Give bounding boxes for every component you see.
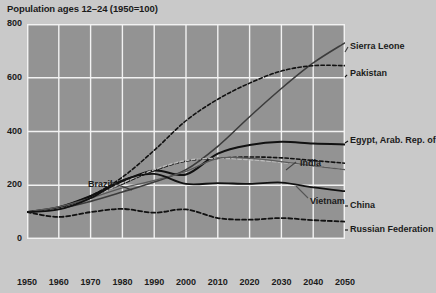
series-label-india: India (300, 158, 321, 168)
x-axis-tick-1950: 1950 (10, 277, 44, 287)
series-label-egypt-arab-rep-of: Egypt, Arab. Rep. of (350, 135, 436, 145)
series-label-china: China (350, 200, 375, 210)
y-axis-tick-600: 600 (0, 72, 22, 82)
y-axis-tick-400: 400 (0, 126, 22, 136)
series-label-sierra-leone: Sierra Leone (350, 41, 405, 51)
x-axis-tick-2050: 2050 (328, 277, 362, 287)
leader-egypt (345, 141, 348, 143)
y-axis-tick-0: 0 (0, 233, 22, 243)
x-axis-tick-2010: 2010 (201, 277, 235, 287)
leader-sierra-leone (345, 47, 348, 52)
x-axis-tick-1990: 1990 (137, 277, 171, 287)
series-label-vietnam: Vietnam (310, 196, 345, 206)
x-axis-tick-2040: 2040 (296, 277, 330, 287)
y-axis-tick-800: 800 (0, 18, 22, 28)
x-axis-tick-2000: 2000 (169, 277, 203, 287)
series-label-pakistan: Pakistan (350, 68, 387, 78)
x-axis-tick-1970: 1970 (74, 277, 108, 287)
plot-area (27, 24, 345, 239)
x-axis-tick-2020: 2020 (233, 277, 267, 287)
series-label-brazil: Brazil (88, 179, 113, 189)
series-label-russian-federation: Russian Federation (350, 224, 434, 234)
y-axis-tick-200: 200 (0, 179, 22, 189)
chart-title: Population ages 12–24 (1950=100) (7, 3, 158, 14)
x-axis-tick-1960: 1960 (42, 277, 76, 287)
leader-pakistan (345, 74, 348, 77)
x-axis-tick-2030: 2030 (264, 277, 298, 287)
series-lines (27, 24, 345, 239)
x-axis-tick-1980: 1980 (105, 277, 139, 287)
